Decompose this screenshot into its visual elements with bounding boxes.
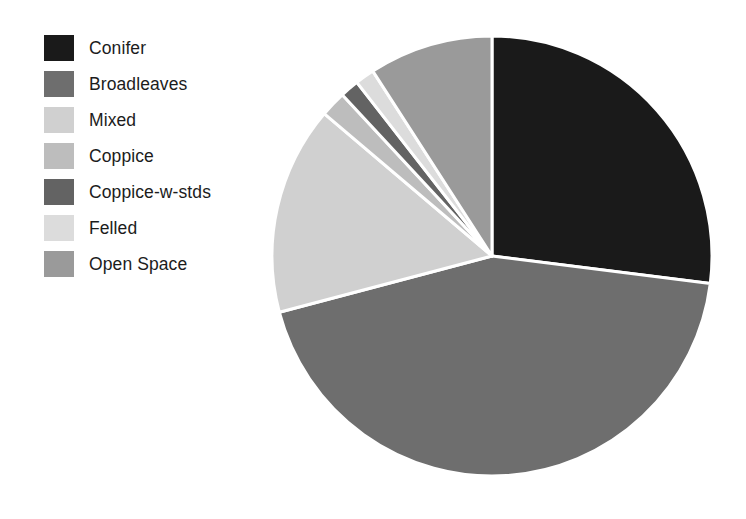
legend-swatch-icon [44,251,74,277]
pie-slice[interactable] [492,36,712,284]
legend-swatch-icon [44,71,74,97]
legend-item-label: Mixed [89,110,136,131]
legend-swatch-icon [44,107,74,133]
legend-item-label: Coppice [89,146,154,167]
legend-item-label: Broadleaves [89,74,187,95]
legend-swatch-icon [44,179,74,205]
legend-item-label: Conifer [89,38,146,59]
legend-item[interactable]: Conifer [44,30,274,66]
legend-item[interactable]: Broadleaves [44,66,274,102]
chart-legend: ConiferBroadleavesMixedCoppiceCoppice-w-… [44,30,274,282]
legend-item[interactable]: Coppice [44,138,274,174]
legend-swatch-icon [44,143,74,169]
pie-chart-figure: ConiferBroadleavesMixedCoppiceCoppice-w-… [0,0,746,519]
pie-chart-plot-area [262,26,732,496]
legend-item-label: Felled [89,218,137,239]
legend-swatch-icon [44,215,74,241]
legend-item[interactable]: Felled [44,210,274,246]
legend-item[interactable]: Mixed [44,102,274,138]
legend-item-label: Coppice-w-stds [89,182,211,203]
legend-item[interactable]: Coppice-w-stds [44,174,274,210]
legend-item-label: Open Space [89,254,187,275]
legend-item[interactable]: Open Space [44,246,274,282]
pie-chart-svg [262,26,732,496]
legend-swatch-icon [44,35,74,61]
